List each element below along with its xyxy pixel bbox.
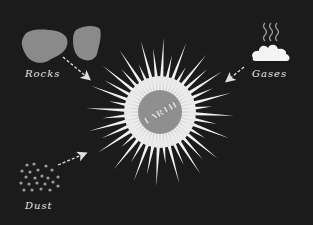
- dust-arrow: [58, 154, 84, 165]
- gases-label: Gases: [252, 68, 287, 79]
- rocks-icon: [22, 26, 101, 63]
- dust-label: Dust: [25, 200, 53, 211]
- steam-cloud-icon: [252, 23, 289, 61]
- earth-formation-diagram: EARTH Rocks Gases Dust: [0, 0, 313, 225]
- gases-arrow: [228, 67, 244, 80]
- dust-particles-icon: [19, 162, 59, 191]
- rocks-label: Rocks: [25, 68, 60, 79]
- diagram-canvas: EARTH: [0, 0, 313, 225]
- rocks-arrow: [63, 57, 88, 78]
